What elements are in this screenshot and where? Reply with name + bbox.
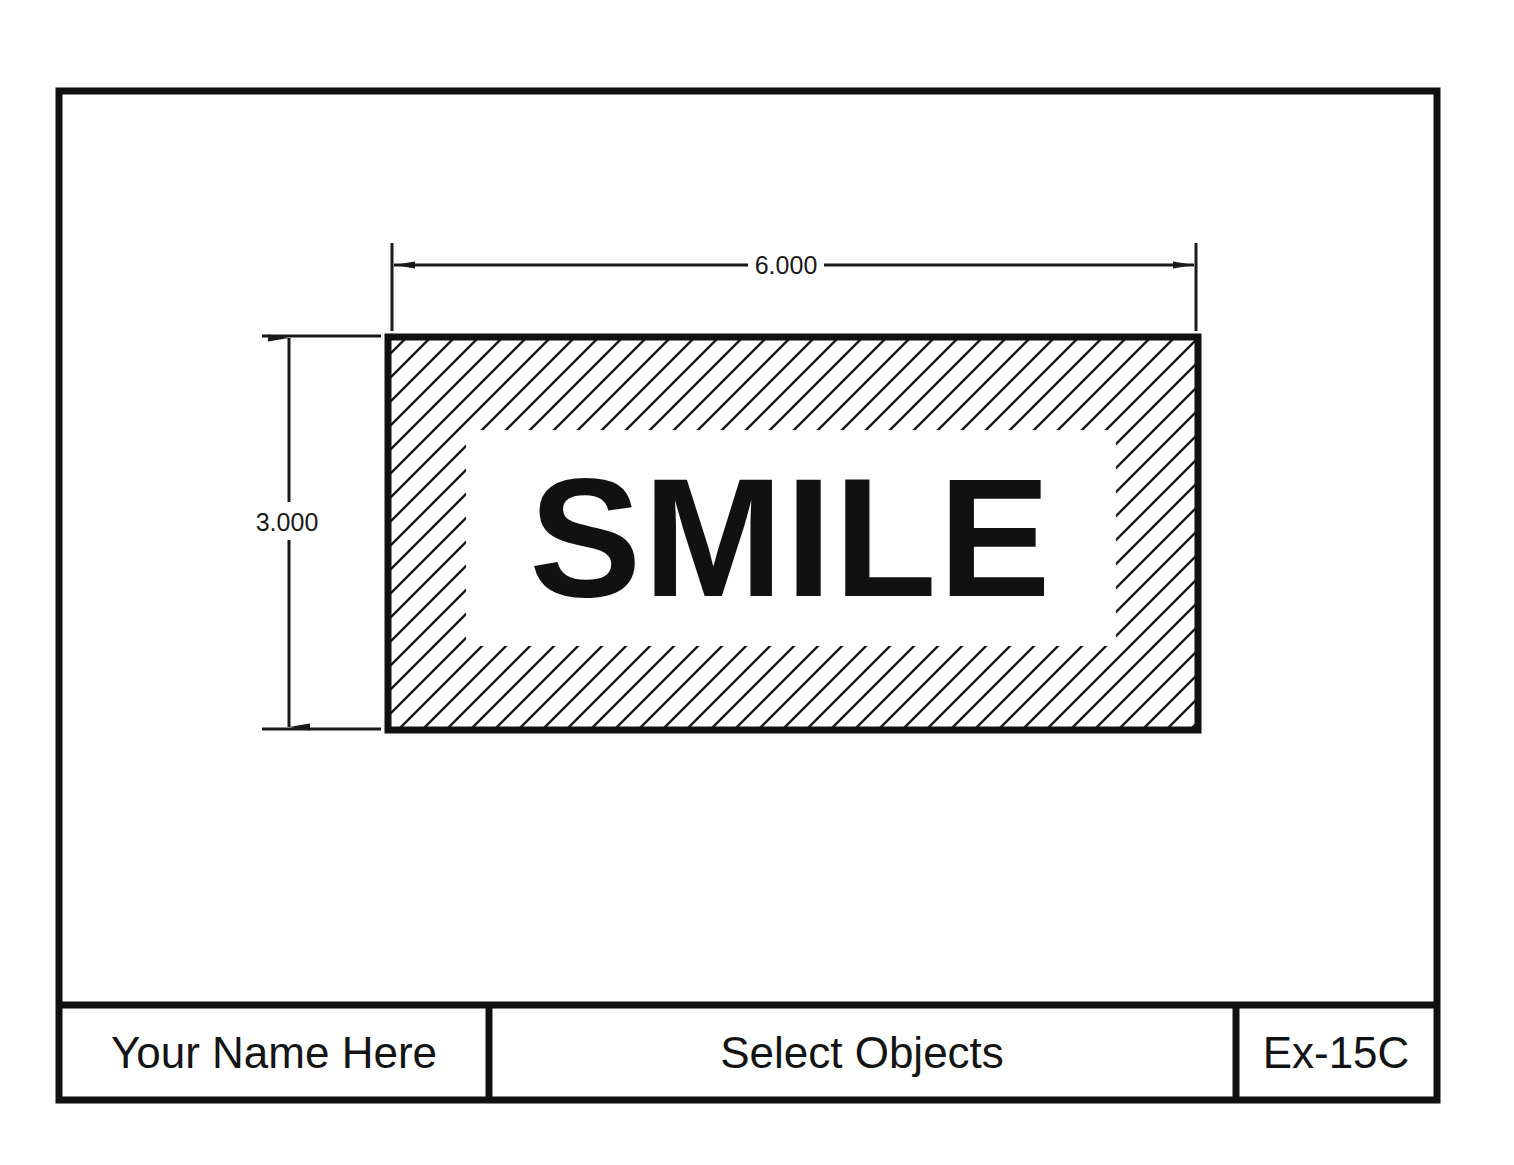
drawing-sheet: Your Name Here Select Objects Ex-15C SMI… <box>0 0 1514 1165</box>
title-block: Your Name Here Select Objects Ex-15C <box>59 1005 1437 1100</box>
part-label-smile: SMILE <box>529 444 1052 632</box>
cad-drawing-canvas: Your Name Here Select Objects Ex-15C SMI… <box>0 0 1514 1165</box>
title-block-name-cell: Your Name Here <box>111 1028 437 1077</box>
title-block-number-cell: Ex-15C <box>1263 1028 1410 1077</box>
title-block-title-cell: Select Objects <box>720 1028 1004 1077</box>
dimension-height: 3.000 <box>256 336 381 729</box>
dimension-text-width: 6.000 <box>755 251 818 279</box>
dimension-text-height: 3.000 <box>256 508 319 536</box>
part-rectangle: SMILE <box>388 337 1198 730</box>
dimension-width: 6.000 <box>392 243 1196 331</box>
